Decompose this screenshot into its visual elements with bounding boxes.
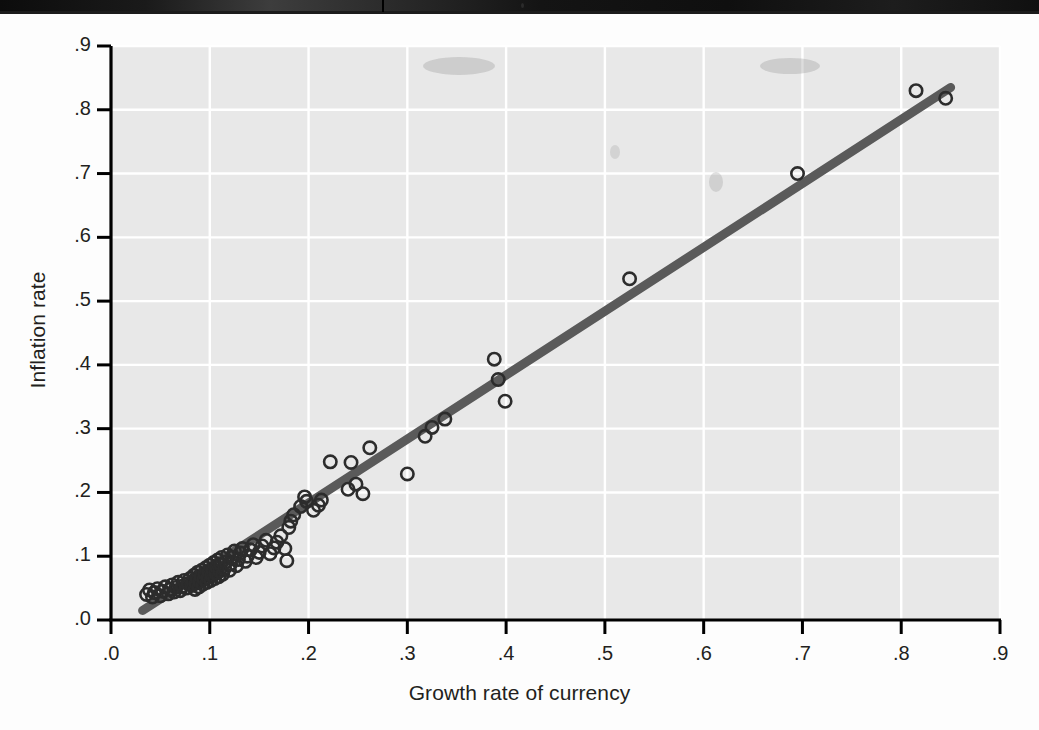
y-tick-label: .9 <box>51 33 91 56</box>
x-tick-label: .9 <box>980 642 1020 665</box>
y-tick-label: .8 <box>51 97 91 120</box>
y-tick-label: .4 <box>51 352 91 375</box>
y-axis-title: Inflation rate <box>26 230 50 430</box>
y-tick-label: .0 <box>51 607 91 630</box>
x-tick-label: .1 <box>190 642 230 665</box>
y-tick-label: .1 <box>51 543 91 566</box>
x-tick-label: .6 <box>684 642 724 665</box>
inflation-money-growth-figure: .0.1.2.3.4.5.6.7.8.9 .0.1.2.3.4.5.6.7.8.… <box>0 0 1039 730</box>
plot-area-background <box>111 46 1000 620</box>
x-tick-label: .7 <box>782 642 822 665</box>
y-tick-label: .2 <box>51 479 91 502</box>
x-tick-label: .4 <box>486 642 526 665</box>
x-tick-label: .5 <box>585 642 625 665</box>
x-axis-title: Growth rate of currency <box>0 681 1039 705</box>
y-tick-label: .3 <box>51 416 91 439</box>
x-tick-label: .2 <box>289 642 329 665</box>
x-tick-label: .8 <box>881 642 921 665</box>
y-axis-ticks <box>97 46 111 620</box>
x-axis-ticks <box>111 620 1000 634</box>
scatter-plot-canvas <box>0 0 1039 730</box>
y-tick-label: .6 <box>51 224 91 247</box>
y-tick-label: .5 <box>51 288 91 311</box>
y-tick-label: .7 <box>51 161 91 184</box>
x-tick-label: .3 <box>387 642 427 665</box>
x-tick-label: .0 <box>91 642 131 665</box>
